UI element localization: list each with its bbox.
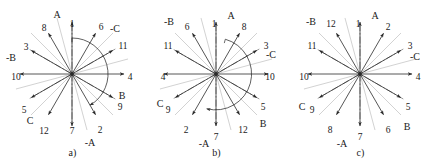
- phase-label-negC: -C: [110, 23, 120, 34]
- phase-label-A: A: [227, 10, 235, 21]
- ray-label-3: 3: [24, 42, 29, 52]
- ray-label-7: 7: [214, 132, 219, 142]
- ray-label-5: 5: [261, 102, 266, 112]
- phase-label-negC: -C: [410, 51, 420, 62]
- phase-label-A: A: [53, 9, 61, 20]
- ray-2: [72, 74, 96, 115]
- ray-label-11: 11: [118, 41, 127, 51]
- ray-label-9: 9: [166, 105, 171, 115]
- arc-start-tick: [224, 39, 225, 43]
- phase-label-B: B: [119, 90, 126, 101]
- ray-label-4: 4: [416, 72, 421, 82]
- panel-a: 161149271251038A-CB-AC-Ba): [0, 0, 145, 164]
- origin-dot: [214, 72, 218, 76]
- phase-label-negC: -C: [266, 49, 276, 60]
- ray-5: [31, 74, 72, 98]
- ray-label-8: 8: [42, 23, 47, 33]
- ray-2: [360, 33, 384, 74]
- ray-label-7: 7: [70, 126, 75, 136]
- ray-6: [193, 33, 217, 74]
- ray-2: [193, 74, 217, 115]
- ray-label-3: 3: [408, 41, 413, 51]
- ray-label-2: 2: [386, 22, 391, 32]
- ray-9: [175, 74, 216, 98]
- ray-label-8: 8: [242, 22, 247, 32]
- panel-caption-b: b): [144, 147, 289, 158]
- ray-label-9: 9: [310, 105, 315, 115]
- ray-label-12: 12: [326, 19, 336, 29]
- phase-label-C: C: [157, 98, 164, 109]
- ray-3: [31, 51, 72, 75]
- panel-caption-c: c): [288, 147, 433, 158]
- panel-c-canvas: 123456789101112A-CB-AC-B: [288, 0, 433, 164]
- phase-label-negB: -B: [164, 16, 174, 27]
- ray-12: [337, 33, 361, 74]
- phase-label-B: B: [260, 118, 267, 129]
- phase-label-negB: -B: [306, 16, 316, 27]
- ray-label-7: 7: [358, 132, 363, 142]
- ray-label-11: 11: [163, 41, 172, 51]
- phase-label-C: C: [299, 101, 306, 112]
- ray-label-12: 12: [39, 126, 49, 136]
- ray-label-6: 6: [386, 125, 391, 135]
- ray-8: [49, 33, 73, 74]
- ray-label-1: 1: [70, 19, 75, 29]
- panel-b: 183105127294116A-CB-AC-Bb): [144, 0, 289, 164]
- ray-11: [72, 51, 113, 75]
- figure-root: 161149271251038A-CB-AC-Ba)18310512729411…: [0, 0, 433, 164]
- phase-label-A: A: [371, 10, 379, 21]
- origin-dot: [358, 72, 362, 76]
- ray-label-11: 11: [307, 41, 316, 51]
- ray-label-4: 4: [161, 72, 166, 82]
- ray-6: [72, 33, 96, 74]
- ray-label-10: 10: [265, 72, 275, 82]
- panel-a-canvas: 161149271251038A-CB-AC-B: [0, 0, 145, 164]
- phase-label-C: C: [27, 115, 34, 126]
- ray-label-12: 12: [238, 125, 248, 135]
- ray-9: [72, 74, 113, 98]
- ray-12: [216, 74, 240, 115]
- ray-label-4: 4: [128, 72, 133, 82]
- ray-8: [337, 74, 361, 115]
- ray-3: [360, 51, 401, 75]
- ray-3: [216, 51, 257, 75]
- ray-9: [319, 74, 360, 98]
- panel-c: 123456789101112A-CB-AC-Bc): [288, 0, 433, 164]
- ray-11: [319, 51, 360, 75]
- ray-label-9: 9: [118, 102, 123, 112]
- ray-label-6: 6: [99, 22, 104, 32]
- ray-label-5: 5: [406, 102, 411, 112]
- phase-label-negB: -B: [6, 52, 16, 63]
- ray-label-5: 5: [22, 105, 27, 115]
- sweep-arc: [72, 38, 108, 105]
- phase-label-B: B: [404, 121, 411, 132]
- ray-5: [216, 74, 257, 98]
- ray-label-10: 10: [11, 72, 21, 82]
- ray-label-1: 1: [212, 19, 217, 29]
- ray-5: [360, 74, 401, 98]
- ray-11: [175, 51, 216, 75]
- origin-dot: [70, 72, 74, 76]
- ray-label-8: 8: [328, 125, 333, 135]
- ray-label-1: 1: [356, 19, 361, 29]
- ray-6: [360, 74, 384, 115]
- ray-8: [216, 33, 240, 74]
- ray-label-2: 2: [98, 125, 103, 135]
- panel-b-canvas: 183105127294116A-CB-AC-B: [144, 0, 289, 164]
- panel-caption-a: a): [0, 147, 145, 158]
- ray-label-10: 10: [299, 72, 309, 82]
- ray-12: [49, 74, 73, 115]
- ray-label-6: 6: [185, 22, 190, 32]
- ray-label-2: 2: [184, 125, 189, 135]
